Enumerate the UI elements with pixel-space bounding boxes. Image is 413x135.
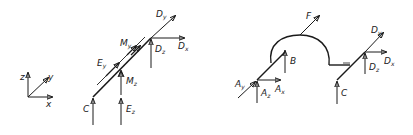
moment-Mz-label: Mz [126, 76, 138, 87]
force-Dy-label: Dy [371, 25, 382, 37]
force-Ey-arrow [106, 63, 119, 76]
force-B-label: B [290, 56, 296, 66]
semicircular-arm [271, 35, 330, 65]
force-Dz-label: Dz [369, 62, 380, 73]
left-free-body-diagram: Ey My Dy Dx Dz Mz Ez C [83, 9, 189, 125]
free-body-diagrams: z y x Ey My Dy Dx Dz Mz Ez C [0, 0, 413, 135]
right-free-body-diagram: F B Ay Ax Az Dy Dx Dz C [234, 11, 395, 104]
x-axis-label: x [45, 99, 52, 109]
force-Dx-label: Dx [384, 56, 395, 67]
force-Ez-label: Ez [126, 104, 136, 115]
force-C-label: C [341, 88, 348, 98]
force-Dx-label: Dx [178, 41, 189, 52]
force-F-label: F [306, 11, 312, 21]
y-axis-arrow [28, 78, 48, 97]
force-Ay-label: Ay [234, 79, 245, 91]
z-axis-label: z [19, 72, 25, 82]
force-Dz-label: Dz [155, 44, 166, 55]
force-Ax-label: Ax [274, 84, 285, 95]
coordinate-axes: z y x [19, 72, 54, 109]
y-axis-label: y [47, 72, 54, 82]
segment-CD [337, 52, 365, 80]
force-C-label: C [83, 104, 90, 114]
force-Dy-label: Dy [156, 9, 167, 21]
moment-My-label: My [120, 38, 132, 50]
force-Az-label: Az [260, 88, 271, 99]
force-Ey-label: Ey [97, 58, 107, 70]
